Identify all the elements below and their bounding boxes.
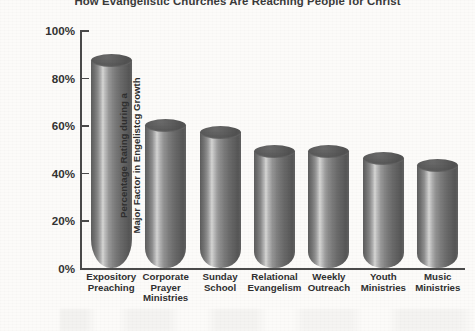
x-axis-label: SundaySchool	[189, 272, 251, 293]
y-tick-label: 0%	[58, 262, 75, 275]
x-axis-label: MusicMinistries	[407, 272, 469, 293]
bar-top-ellipse	[363, 152, 404, 165]
bar-top-ellipse	[308, 145, 349, 158]
y-axis-title-line2: Major Factor in Engelistcg Growth	[29, 48, 244, 263]
x-axis-label: RelationalEvangelism	[243, 272, 305, 293]
x-axis-label-line: Preaching	[80, 283, 142, 294]
x-axis-label: YouthMinistries	[352, 272, 414, 293]
y-tick-label: 100%	[45, 24, 75, 37]
bar-body	[363, 159, 404, 268]
bar-top-ellipse	[254, 145, 295, 158]
bar-cylinder	[417, 159, 458, 268]
x-axis-label-line: Sunday	[189, 272, 251, 283]
x-axis-label: ExpositoryPreaching	[80, 272, 142, 293]
x-axis-label-line: Music	[407, 272, 469, 283]
x-axis-label-line: Weekly	[298, 272, 360, 283]
x-axis-label-line: Ministries	[407, 283, 469, 294]
x-axis-label-line: Corporate	[134, 272, 196, 283]
x-axis-label-line: Ministries	[134, 293, 196, 304]
x-axis-label-line: Relational	[243, 272, 305, 283]
bar	[363, 152, 404, 268]
x-axis-label-line: School	[189, 283, 251, 294]
x-axis-label-line: Evangelism	[243, 283, 305, 294]
bar-body	[254, 151, 295, 268]
y-tick-mark	[80, 268, 89, 270]
x-axis-labels: ExpositoryPreachingCorporatePrayerMinist…	[84, 272, 465, 318]
bar	[417, 159, 458, 268]
x-axis-label: CorporatePrayerMinistries	[134, 272, 196, 304]
bar	[308, 145, 349, 268]
y-axis-title: Percentage Rating during a Major Factor …	[4, 48, 40, 263]
x-axis-label-line: Ministries	[352, 283, 414, 294]
bar-body	[308, 151, 349, 268]
bar-cylinder	[363, 152, 404, 268]
x-axis-label-line: Expository	[80, 272, 142, 283]
x-axis-label: WeeklyOutreach	[298, 272, 360, 293]
x-axis-line	[80, 268, 465, 270]
bar-body	[417, 166, 458, 268]
bar-cylinder	[254, 145, 295, 268]
bar-cylinder	[308, 145, 349, 268]
x-axis-label-line: Youth	[352, 272, 414, 283]
bar	[254, 145, 295, 268]
chart-title: How Evangelistic Churches Are Reaching P…	[0, 0, 475, 7]
chart-container: How Evangelistic Churches Are Reaching P…	[0, 0, 475, 331]
x-axis-label-line: Outreach	[298, 283, 360, 294]
y-tick-mark	[80, 30, 89, 32]
